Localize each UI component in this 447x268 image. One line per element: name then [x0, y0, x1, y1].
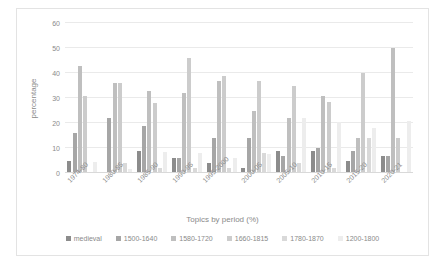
- bar: [107, 118, 111, 173]
- bar: [276, 151, 280, 174]
- bar-group: [169, 23, 204, 173]
- x-axis-tick-cell: 1995-2000: [204, 177, 239, 215]
- bar: [118, 83, 122, 173]
- bar: [233, 158, 237, 173]
- legend-swatch-icon: [66, 236, 71, 241]
- x-axis-tick-cell: 2020-21: [378, 177, 413, 215]
- bar-group: [135, 23, 170, 173]
- bar: [78, 66, 82, 174]
- x-axis-tick-cell: 1990-95: [169, 177, 204, 215]
- bar: [172, 158, 176, 173]
- bar-group: [100, 23, 135, 173]
- bar: [367, 138, 371, 173]
- legend-swatch-icon: [227, 236, 232, 241]
- bar: [163, 152, 167, 173]
- bar: [198, 153, 202, 173]
- x-axis-title: Topics by period (%): [17, 215, 428, 224]
- y-axis-title-label: percentage: [29, 78, 38, 118]
- legend-item[interactable]: 1780-1870: [282, 235, 323, 242]
- legend-item[interactable]: 1200-1800: [338, 235, 379, 242]
- legend-label: medieval: [74, 235, 102, 242]
- bar: [311, 151, 315, 174]
- bar-group: [378, 23, 413, 173]
- bar-group: [274, 23, 309, 173]
- bar: [187, 58, 191, 173]
- bar: [337, 122, 341, 173]
- legend-label: 1580-1720: [179, 235, 212, 242]
- x-axis-tick-cell: 1985-90: [135, 177, 170, 215]
- y-axis-tick-label: 50: [52, 45, 60, 52]
- legend-item[interactable]: medieval: [66, 235, 102, 242]
- y-axis-tick-label: 60: [52, 20, 60, 27]
- legend-label: 1500-1640: [124, 235, 157, 242]
- bar: [372, 128, 376, 173]
- bar: [113, 83, 117, 173]
- x-axis-tick-cell: 2010-15: [309, 177, 344, 215]
- y-axis-tick-label: 20: [52, 120, 60, 127]
- x-axis-tick-labels: 1974-801980-851985-901990-951995-2000200…: [65, 177, 413, 215]
- legend-item[interactable]: 1500-1640: [116, 235, 157, 242]
- chart-container: percentage 0102030405060 1974-801980-851…: [16, 8, 429, 256]
- bar: [321, 96, 325, 174]
- bar: [137, 151, 141, 174]
- bar-group: [309, 23, 344, 173]
- x-axis-tick-cell: 1974-80: [65, 177, 100, 215]
- legend-label: 1780-1870: [290, 235, 323, 242]
- y-axis-title: percentage: [27, 23, 39, 173]
- bar-group: [204, 23, 239, 173]
- x-axis-tick-cell: 2000-05: [239, 177, 274, 215]
- bar: [142, 126, 146, 174]
- bar: [182, 93, 186, 173]
- bar-group: [65, 23, 100, 173]
- bar: [407, 121, 411, 174]
- legend-swatch-icon: [282, 236, 287, 241]
- legend-swatch-icon: [171, 236, 176, 241]
- bar: [257, 81, 261, 174]
- y-axis-tick-label: 10: [52, 145, 60, 152]
- bar: [262, 153, 266, 173]
- bar: [361, 73, 365, 173]
- x-axis-tick-cell: 2015-20: [343, 177, 378, 215]
- x-axis-tick-cell: 2005-10: [274, 177, 309, 215]
- legend-label: 1200-1800: [346, 235, 379, 242]
- plot-area: 0102030405060: [65, 23, 413, 173]
- x-axis-tick-cell: 1980-85: [100, 177, 135, 215]
- legend-label: 1660-1815: [235, 235, 268, 242]
- bar: [267, 154, 271, 173]
- bar-group: [343, 23, 378, 173]
- bar: [302, 118, 306, 173]
- bar: [381, 156, 385, 174]
- legend-item[interactable]: 1660-1815: [227, 235, 268, 242]
- legend-swatch-icon: [338, 236, 343, 241]
- bar-group: [239, 23, 274, 173]
- bar: [391, 48, 395, 173]
- bar: [147, 91, 151, 174]
- y-axis-tick-label: 30: [52, 95, 60, 102]
- bar-groups: [65, 23, 413, 173]
- bar: [73, 133, 77, 173]
- y-axis-tick-label: 0: [56, 170, 60, 177]
- y-axis-tick-label: 40: [52, 70, 60, 77]
- legend-item[interactable]: 1580-1720: [171, 235, 212, 242]
- chart-legend: medieval1500-16401580-17201660-18151780-…: [17, 235, 428, 242]
- legend-swatch-icon: [116, 236, 121, 241]
